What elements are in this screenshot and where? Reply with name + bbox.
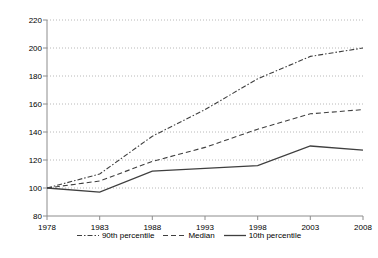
x-axis-ticks <box>47 216 363 220</box>
y-axis-label-180: 180 <box>20 72 42 81</box>
gridlines <box>47 20 363 188</box>
y-axis-ticks <box>43 20 47 216</box>
y-axis-label-80: 80 <box>20 212 42 221</box>
legend-swatch-solid-icon <box>224 232 246 239</box>
legend-label-10th-percentile: 10th percentile <box>249 231 301 240</box>
y-axis-label-100: 100 <box>20 184 42 193</box>
legend-item-median: Median <box>163 231 214 240</box>
legend-swatch-dashed-icon <box>163 232 185 239</box>
data-series <box>47 48 363 192</box>
y-axis-label-200: 200 <box>20 44 42 53</box>
chart-plot-area <box>0 0 378 258</box>
legend-label-90th-percentile: 90th percentile <box>102 231 154 240</box>
y-axis-label-220: 220 <box>20 16 42 25</box>
legend-swatch-dash-dot-icon <box>77 232 99 239</box>
legend-label-median: Median <box>188 231 214 240</box>
series-line-90th-percentile <box>47 48 363 188</box>
legend-item-90th-percentile: 90th percentile <box>77 231 154 240</box>
axes <box>47 20 363 216</box>
y-axis-label-140: 140 <box>20 128 42 137</box>
legend-item-10th-percentile: 10th percentile <box>224 231 301 240</box>
y-axis-label-120: 120 <box>20 156 42 165</box>
series-line-10th-percentile <box>47 146 363 192</box>
chart-legend: 90th percentile Median 10th percentile <box>0 231 378 240</box>
series-line-median <box>47 110 363 188</box>
line-chart: 220 200 180 160 140 120 100 80 1978 1983… <box>0 0 378 258</box>
y-axis-label-160: 160 <box>20 100 42 109</box>
